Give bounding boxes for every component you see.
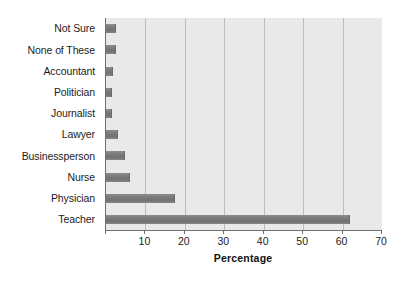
- bar: [106, 67, 113, 76]
- bar-row: [106, 166, 382, 187]
- bar-row: [106, 188, 382, 209]
- bar-row: [106, 39, 382, 60]
- x-axis-tick-labels: 10203040506070: [105, 234, 381, 250]
- category-label: Accountant: [0, 60, 101, 81]
- tick-label: 60: [336, 234, 348, 248]
- bar-chart: Not SureNone of TheseAccountantPoliticia…: [0, 0, 405, 286]
- category-label: Journalist: [0, 103, 101, 124]
- category-label: Teacher: [0, 209, 101, 230]
- bar-row: [106, 145, 382, 166]
- category-label: Lawyer: [0, 124, 101, 145]
- category-label: Businessperson: [0, 145, 101, 166]
- bar: [106, 130, 118, 139]
- bar: [106, 215, 350, 224]
- bar-row: [106, 124, 382, 145]
- bar: [106, 24, 116, 33]
- bar: [106, 151, 125, 160]
- bar-row: [106, 82, 382, 103]
- tick-label: 50: [296, 234, 308, 248]
- category-label: Not Sure: [0, 18, 101, 39]
- x-axis-title: Percentage: [105, 252, 381, 264]
- category-label: None of These: [0, 39, 101, 60]
- category-label: Politician: [0, 82, 101, 103]
- tick-label: 40: [257, 234, 269, 248]
- bar-row: [106, 103, 382, 124]
- category-axis: Not SureNone of TheseAccountantPoliticia…: [0, 18, 101, 230]
- bar-row: [106, 60, 382, 81]
- bar: [106, 194, 175, 203]
- bar: [106, 109, 112, 118]
- bar-row: [106, 18, 382, 39]
- tick-label: 20: [178, 234, 190, 248]
- tick-label: 70: [375, 234, 387, 248]
- bar: [106, 45, 116, 54]
- bars-layer: [106, 18, 382, 230]
- plot-area: [105, 18, 382, 231]
- bar: [106, 173, 130, 182]
- category-label: Physician: [0, 188, 101, 209]
- bar: [106, 88, 112, 97]
- tick-label: 30: [217, 234, 229, 248]
- tick-label: 10: [139, 234, 151, 248]
- category-label: Nurse: [0, 166, 101, 187]
- bar-row: [106, 209, 382, 230]
